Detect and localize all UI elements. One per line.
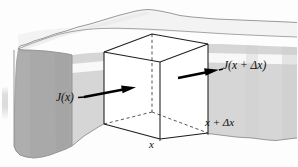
position-right-label: x + Δx bbox=[205, 117, 234, 128]
flux-out-label: J(x + Δx) bbox=[223, 60, 266, 72]
flux-in-leader bbox=[78, 97, 85, 98]
position-left-label: x bbox=[149, 139, 154, 150]
bar-front-face-left bbox=[72, 52, 104, 146]
scan-artifact bbox=[2, 86, 8, 120]
flux-in-label: J(x) bbox=[56, 92, 74, 104]
flux-control-volume-diagram: J(x) J(x + Δx) x x + Δx bbox=[0, 0, 298, 167]
bar-left-end-face bbox=[14, 49, 72, 158]
